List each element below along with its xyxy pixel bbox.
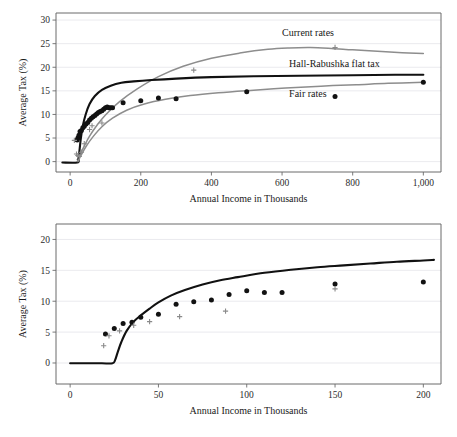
data-point-dot <box>209 297 214 302</box>
data-point-dot <box>121 321 126 326</box>
y-tick-label: 20 <box>41 63 51 73</box>
chart-background <box>0 0 457 437</box>
y-tick-label: 15 <box>41 266 51 276</box>
y-tick-label: 0 <box>45 358 50 368</box>
y-axis-title: Average Tax (%) <box>17 270 29 338</box>
data-point-dot <box>244 288 249 293</box>
x-tick-label: 150 <box>328 390 343 400</box>
data-point-dot <box>121 100 126 105</box>
y-tick-label: 30 <box>41 15 51 25</box>
x-tick-label: 200 <box>134 178 149 188</box>
data-point-dot <box>156 95 161 100</box>
data-point-dot <box>421 80 426 85</box>
x-tick-label: 0 <box>68 390 73 400</box>
data-point-dot <box>421 280 426 285</box>
y-tick-label: 10 <box>41 110 51 120</box>
x-tick-label: 0 <box>68 178 73 188</box>
data-point-dot <box>244 89 249 94</box>
series-annotation: Current rates <box>282 27 334 38</box>
y-tick-label: 25 <box>41 39 51 49</box>
y-tick-label: 10 <box>41 297 51 307</box>
data-point-dot <box>156 312 161 317</box>
y-tick-label: 15 <box>41 86 51 96</box>
x-tick-label: 600 <box>275 178 290 188</box>
data-point-dot <box>227 292 232 297</box>
x-axis-title: Annual Income in Thousands <box>190 193 308 204</box>
data-point-dot <box>262 290 267 295</box>
figure-container: 02004006008001,000051015202530Annual Inc… <box>0 0 457 437</box>
data-point-dot <box>174 302 179 307</box>
series-annotation: Fair rates <box>289 88 327 99</box>
data-point-dot <box>280 290 285 295</box>
x-tick-label: 1,000 <box>413 178 435 188</box>
data-point-dot <box>333 281 338 286</box>
x-tick-label: 100 <box>240 390 255 400</box>
data-point-dot <box>110 105 115 110</box>
data-point-dot <box>191 299 196 304</box>
data-point-dot <box>138 98 143 103</box>
dual-panel-tax-chart: 02004006008001,000051015202530Annual Inc… <box>0 0 457 437</box>
data-point-dot <box>333 94 338 99</box>
series-annotation: Hall-Rabushka flat tax <box>289 58 380 69</box>
x-axis-title: Annual Income in Thousands <box>190 405 308 416</box>
y-axis-title: Average Tax (%) <box>17 59 29 127</box>
y-tick-label: 5 <box>45 328 50 338</box>
data-point-dot <box>138 315 143 320</box>
x-tick-label: 400 <box>204 178 219 188</box>
y-tick-label: 5 <box>45 133 50 143</box>
x-tick-label: 800 <box>346 178 361 188</box>
y-tick-label: 20 <box>41 235 51 245</box>
y-tick-label: 0 <box>45 157 50 167</box>
x-tick-label: 200 <box>416 390 431 400</box>
x-tick-label: 50 <box>154 390 164 400</box>
data-point-dot <box>112 326 117 331</box>
data-point-dot <box>174 96 179 101</box>
